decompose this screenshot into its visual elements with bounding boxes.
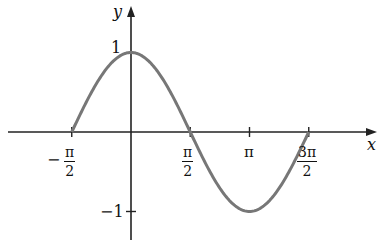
axes (8, 6, 377, 240)
frac-num: π (182, 145, 193, 162)
x-tick-label-neg-pi-over-2: π 2 (64, 145, 75, 178)
frac-den: 2 (303, 162, 312, 178)
frac-num: 3π (297, 145, 317, 162)
x-tick-sign-neg: − (47, 152, 60, 168)
y-axis-label: y (113, 4, 122, 20)
y-tick-label-neg1: −1 (100, 204, 124, 220)
x-axis-label: x (367, 137, 376, 153)
frac-den: 2 (183, 162, 192, 178)
plot-area (0, 0, 385, 242)
x-tick-label-pi: π (244, 145, 254, 160)
frac-num: π (64, 145, 75, 162)
y-axis-arrow-icon (127, 6, 135, 17)
x-tick-label-pi-over-2: π 2 (182, 145, 193, 178)
x-tick-label-3pi-over-2: 3π 2 (297, 145, 317, 178)
cosine-graph: y x 1 −1 − π 2 π 2 π 3π 2 (0, 0, 385, 242)
frac-den: 2 (65, 162, 74, 178)
y-tick-label-1: 1 (111, 40, 121, 56)
